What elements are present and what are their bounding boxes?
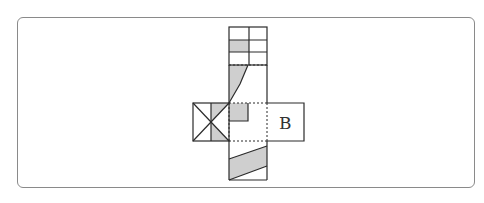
shade-top-cell	[229, 40, 249, 52]
cube-net-diagram: B	[0, 0, 484, 203]
face-label-b: B	[279, 113, 292, 133]
shade-bottom-parallelogram	[229, 146, 267, 180]
shaded-regions	[211, 40, 267, 180]
shade-center-square	[229, 103, 248, 121]
